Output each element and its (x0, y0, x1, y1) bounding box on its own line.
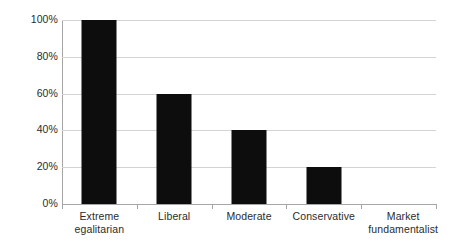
bar-liberal (157, 94, 192, 204)
x-category-label-market-fundamentalist: Market fundamentalist (353, 210, 453, 236)
x-category-label-line-1: Extreme (62, 210, 137, 223)
y-tick-label-40: 40% (0, 124, 58, 135)
x-category-label-line-2: egalitarian (62, 223, 137, 236)
y-tick-label-100: 100% (0, 14, 58, 25)
plot-area (62, 20, 436, 204)
bar-conservative (306, 167, 341, 204)
x-category-label-line-1: Market (353, 210, 453, 223)
bar-slot-liberal (137, 20, 212, 204)
y-tick-label-60: 60% (0, 88, 58, 99)
y-tick-label-20: 20% (0, 161, 58, 172)
bar-chart: 100% 80% 60% 40% 20% 0% (0, 0, 455, 252)
x-category-label-extreme-egalitarian: Extreme egalitarian (62, 210, 137, 236)
x-category-label-moderate: Moderate (212, 210, 287, 223)
x-tick-2 (212, 204, 213, 209)
x-tick-3 (286, 204, 287, 209)
bar-slot-market-fundamentalist (361, 20, 436, 204)
x-tick-0 (62, 204, 63, 209)
bar-slot-moderate (212, 20, 287, 204)
bar-slot-extreme-egalitarian (62, 20, 137, 204)
y-tick-label-80: 80% (0, 51, 58, 62)
x-category-label-conservative: Conservative (286, 210, 361, 223)
x-tick-5 (436, 204, 437, 209)
bar-extreme-egalitarian (82, 20, 117, 204)
x-tick-4 (361, 204, 362, 209)
x-category-label-liberal: Liberal (137, 210, 212, 223)
x-category-label-line-2: fundamentalist (353, 223, 453, 236)
x-category-label-line-1: Conservative (286, 210, 361, 223)
bar-moderate (231, 130, 266, 204)
x-category-label-line-1: Liberal (137, 210, 212, 223)
gridline-0 (62, 204, 436, 205)
y-tick-label-0: 0% (0, 198, 58, 209)
x-category-label-line-1: Moderate (212, 210, 287, 223)
bar-slot-conservative (286, 20, 361, 204)
x-tick-1 (137, 204, 138, 209)
